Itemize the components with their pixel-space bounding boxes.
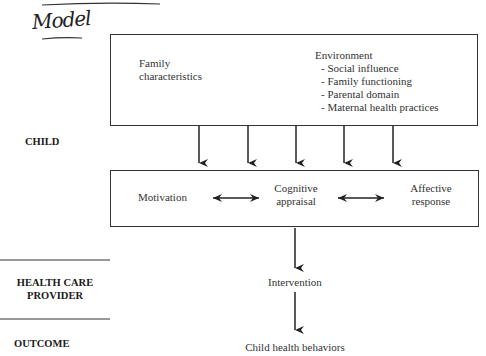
handwritten-model-note: Model — [31, 6, 91, 34]
intervention-label: Intervention — [245, 276, 345, 289]
environment-group: Environment - Social influence - Family … — [315, 49, 439, 114]
motivation-label: Motivation — [138, 191, 187, 204]
row-label-line: HEALTH CARE — [0, 276, 110, 289]
row-label-child: CHILD — [25, 135, 59, 148]
text-line: appraisal — [266, 195, 326, 208]
text-line: Family — [139, 57, 202, 70]
row-label-outcome: OUTCOME — [14, 337, 69, 350]
cognitive-appraisal-label: Cognitive appraisal — [266, 182, 326, 208]
child-health-behaviors-label: Child health behaviors — [220, 341, 370, 354]
environment-item: - Social influence — [315, 62, 439, 75]
environment-title: Environment — [315, 49, 439, 62]
row-label-health-care-provider: HEALTH CARE PROVIDER — [0, 276, 110, 302]
affective-response-label: Affective response — [401, 182, 461, 208]
influences-box: Family characteristics Environment - Soc… — [110, 34, 478, 126]
text-line: Affective — [401, 182, 461, 195]
environment-item: - Maternal health practices — [315, 101, 439, 114]
environment-item: - Parental domain — [315, 88, 439, 101]
child-response-box: Motivation Cognitive appraisal Affective… — [110, 170, 479, 227]
family-characteristics: Family characteristics — [139, 57, 202, 83]
text-line: characteristics — [139, 70, 202, 83]
row-label-line: PROVIDER — [0, 289, 110, 302]
text-line: Cognitive — [266, 182, 326, 195]
environment-item: - Family functioning — [315, 75, 439, 88]
text-line: response — [401, 195, 461, 208]
